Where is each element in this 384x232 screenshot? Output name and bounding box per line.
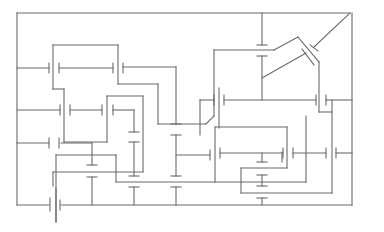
row-3-capacitors [17, 138, 116, 222]
center-wiring [116, 37, 306, 182]
capacitor-network-diagram [0, 0, 384, 232]
row-lower-right-capacitors [215, 100, 352, 205]
top-right-capacitors [257, 13, 350, 112]
column-capacitors [129, 100, 210, 205]
row-1-capacitors [17, 45, 176, 142]
capacitor-bottom-left [50, 188, 60, 222]
row-2-capacitors [17, 96, 143, 186]
